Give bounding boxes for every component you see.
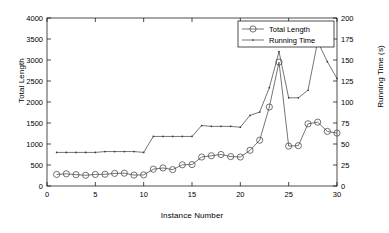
data-point-marker	[259, 111, 261, 113]
data-point-marker	[191, 136, 193, 138]
y-tick-label-right: 25	[341, 161, 349, 170]
x-tick-label: 25	[284, 190, 292, 199]
data-point-marker	[278, 51, 280, 53]
data-point-marker	[114, 151, 116, 153]
x-tick-label: 30	[333, 190, 341, 199]
data-point-marker	[143, 152, 145, 154]
legend-label-0: Total Length	[269, 25, 310, 34]
legend-marker-dot	[252, 39, 254, 41]
data-point-marker	[297, 97, 299, 99]
x-tick-label: 15	[188, 190, 196, 199]
y-tick-label-left: 3500	[26, 35, 43, 44]
y-tick-label-left: 2500	[26, 77, 43, 86]
x-axis-title: Instance Number	[47, 211, 337, 220]
data-point-marker	[307, 89, 309, 91]
y-tick-label-right: 150	[341, 56, 354, 65]
legend-label-1: Running Time	[269, 36, 315, 45]
data-point-marker	[288, 97, 290, 99]
y-tick-label-left: 2000	[26, 98, 43, 107]
y-tick-label-left: 0	[39, 182, 43, 191]
y-tick-label-right: 200	[341, 14, 354, 23]
data-point-marker	[75, 152, 77, 154]
series-line-0	[57, 62, 337, 175]
data-point-marker	[104, 151, 106, 153]
chart-figure: 0510152025300500100015002000250030003500…	[0, 0, 389, 233]
data-point-marker	[65, 152, 67, 154]
data-point-marker	[220, 126, 222, 128]
data-point-marker	[94, 152, 96, 154]
data-point-marker	[85, 152, 87, 154]
x-tick-label: 0	[45, 190, 49, 199]
data-point-marker	[268, 87, 270, 89]
data-point-marker	[172, 136, 174, 138]
y-tick-label-right: 100	[341, 98, 354, 107]
data-point-marker	[201, 125, 203, 127]
data-point-marker	[239, 126, 241, 128]
y-tick-label-right: 0	[341, 182, 345, 191]
data-point-marker	[123, 151, 125, 153]
data-point-marker	[230, 126, 232, 128]
y-axis-left-title: Total Length	[17, 38, 26, 124]
data-point-marker	[249, 115, 251, 117]
data-point-marker	[336, 78, 338, 80]
chart-legend: Total LengthRunning Time	[238, 21, 334, 47]
x-tick-label: 5	[93, 190, 97, 199]
y-tick-label-right: 175	[341, 35, 354, 44]
data-point-marker	[133, 151, 135, 153]
data-point-marker	[162, 136, 164, 138]
data-point-marker	[181, 136, 183, 138]
data-point-marker	[210, 126, 212, 128]
series-line-1	[57, 42, 337, 153]
y-tick-label-right: 50	[341, 140, 349, 149]
y-tick-label-right: 125	[341, 77, 354, 86]
y-axis-right-title: Running Time (s)	[376, 30, 385, 124]
data-point-marker	[56, 152, 58, 154]
y-tick-label-left: 1500	[26, 119, 43, 128]
x-tick-label: 10	[139, 190, 147, 199]
y-tick-label-left: 500	[30, 161, 43, 170]
x-tick-label: 20	[236, 190, 244, 199]
data-point-marker	[326, 61, 328, 63]
data-series	[54, 41, 341, 179]
y-tick-label-left: 3000	[26, 56, 43, 65]
data-point-marker	[152, 136, 154, 138]
dual-axis-line-chart: 0510152025300500100015002000250030003500…	[0, 0, 389, 233]
y-tick-label-right: 75	[341, 119, 349, 128]
y-tick-label-left: 4000	[26, 14, 43, 23]
y-tick-label-left: 1000	[26, 140, 43, 149]
